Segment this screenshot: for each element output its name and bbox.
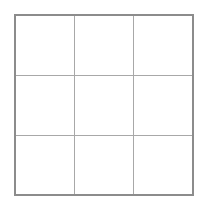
tic-tac-toe-board [14, 14, 194, 196]
cell-2-0[interactable] [16, 136, 75, 194]
cell-2-1[interactable] [75, 136, 134, 194]
cell-0-0[interactable] [16, 16, 75, 76]
cell-1-2[interactable] [134, 76, 192, 136]
cell-0-2[interactable] [134, 16, 192, 76]
cell-2-2[interactable] [134, 136, 192, 194]
cell-1-0[interactable] [16, 76, 75, 136]
cell-1-1[interactable] [75, 76, 134, 136]
cell-0-1[interactable] [75, 16, 134, 76]
